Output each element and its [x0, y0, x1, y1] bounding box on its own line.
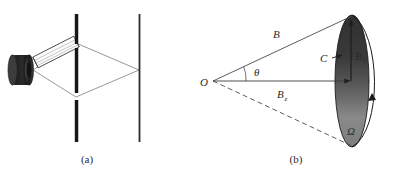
label-cap-point: C: [320, 52, 328, 64]
label-origin: O: [200, 76, 208, 88]
caption-panel-a: (a): [81, 153, 94, 166]
barrier-bar-middle: [75, 48, 79, 93]
caption-panel-b: (b): [290, 153, 303, 166]
label-theta: θ: [254, 66, 260, 78]
label-b-axial-base: B: [277, 88, 284, 100]
label-b-perp-base: B: [355, 50, 362, 62]
cone-upper-edge: [213, 16, 352, 81]
label-field-vector: B: [273, 28, 280, 40]
label-b-axial: B z: [277, 88, 288, 103]
physics-figure: (a) O B θ C B 1 B z Ω: [0, 0, 393, 178]
panel-b: O B θ C B 1 B z Ω (b): [200, 15, 376, 166]
theta-arc: [244, 67, 246, 82]
label-solid-angle: Ω: [347, 125, 355, 137]
barrier-bar-top: [75, 14, 79, 44]
slit-barrier: [75, 14, 79, 142]
label-b-axial-sub: z: [284, 95, 288, 103]
label-b-perp-sub: 1: [363, 57, 367, 65]
barrier-bar-bottom: [75, 100, 79, 142]
cap-arc-arrow: [368, 93, 376, 101]
panel-a: (a): [8, 14, 140, 166]
light-source-cylinder: [8, 55, 34, 85]
collimator-tube: [33, 36, 79, 68]
